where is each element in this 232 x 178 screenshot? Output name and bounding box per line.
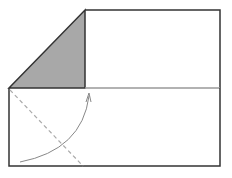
lower-paper-outline bbox=[9, 88, 220, 166]
valley-fold-dashed-line bbox=[10, 90, 83, 166]
upper-paper-outline bbox=[85, 10, 220, 88]
folded-flap-triangle bbox=[9, 10, 85, 88]
fold-direction-arrow bbox=[20, 96, 89, 162]
fold-diagram bbox=[0, 0, 232, 178]
